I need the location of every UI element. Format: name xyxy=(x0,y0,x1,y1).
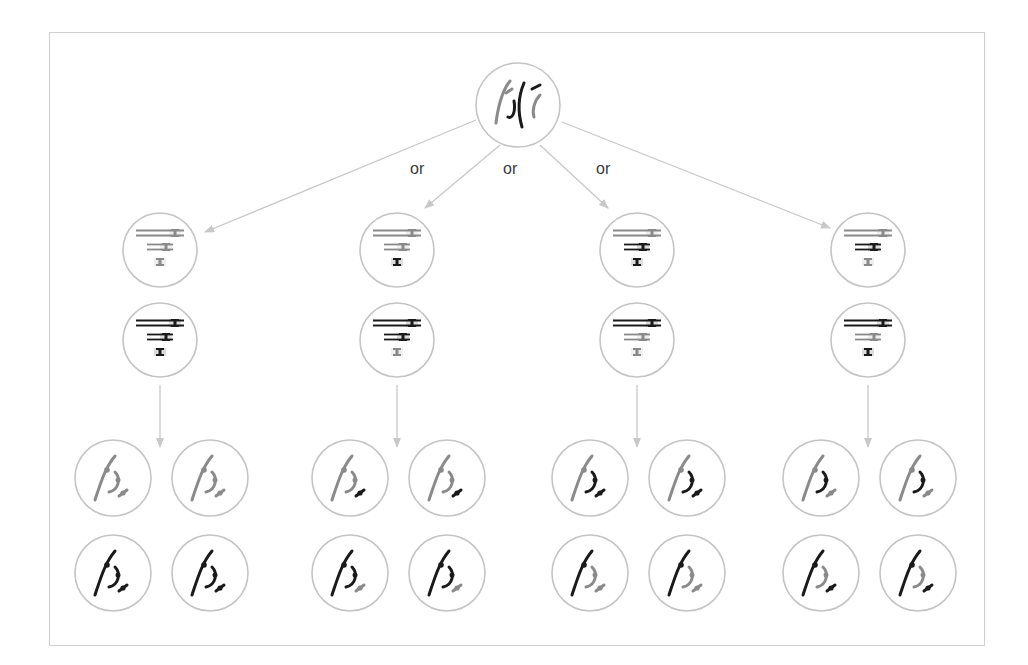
daughter-cell-4 xyxy=(649,535,725,611)
daughter-cell-2 xyxy=(409,440,485,516)
daughter-cell-2-outline xyxy=(649,440,725,516)
daughter-cell-3 xyxy=(312,535,388,611)
metaphase-lower-cell xyxy=(123,303,197,377)
daughter-cell-3-outline xyxy=(312,535,388,611)
daughter-cell-2-outline xyxy=(880,440,956,516)
daughter-cell-2 xyxy=(649,440,725,516)
cells-layer xyxy=(75,63,956,611)
metaphase-upper-cell xyxy=(123,213,197,287)
daughter-cell-1 xyxy=(75,440,151,516)
daughter-cell-4 xyxy=(172,535,248,611)
daughter-cell-3-outline xyxy=(75,535,151,611)
metaphase-upper-cell xyxy=(600,213,674,287)
branch-arrow xyxy=(205,120,476,232)
meiosis-diagram xyxy=(0,0,1028,665)
daughter-cell-4-outline xyxy=(409,535,485,611)
daughter-cell-2 xyxy=(172,440,248,516)
daughter-cell-3 xyxy=(552,535,628,611)
daughter-cell-1 xyxy=(783,440,859,516)
branch-arrow xyxy=(425,145,500,208)
metaphase-upper-cell xyxy=(360,213,434,287)
daughter-cell-1 xyxy=(312,440,388,516)
daughter-cell-3-outline xyxy=(783,535,859,611)
daughter-cell-4-outline xyxy=(880,535,956,611)
arrangement-2 xyxy=(312,213,485,611)
daughter-cell-1-outline xyxy=(552,440,628,516)
metaphase-lower-cell xyxy=(831,303,905,377)
daughter-cell-4 xyxy=(880,535,956,611)
daughter-cell-1-outline xyxy=(75,440,151,516)
daughter-cell-4-outline xyxy=(649,535,725,611)
daughter-cell-1-outline xyxy=(783,440,859,516)
arrangement-4 xyxy=(783,213,956,611)
parent-cell xyxy=(476,63,560,147)
metaphase-lower-cell xyxy=(360,303,434,377)
daughter-cell-3-outline xyxy=(552,535,628,611)
or-label-3: or xyxy=(596,160,610,178)
daughter-cell-2 xyxy=(880,440,956,516)
metaphase-upper-cell xyxy=(831,213,905,287)
or-label-2: or xyxy=(503,160,517,178)
arrangement-1 xyxy=(75,213,248,611)
daughter-cell-4-outline xyxy=(172,535,248,611)
daughter-cell-2-outline xyxy=(409,440,485,516)
daughter-cell-3 xyxy=(75,535,151,611)
daughter-cell-3 xyxy=(783,535,859,611)
daughter-cell-1-outline xyxy=(312,440,388,516)
daughter-cell-4 xyxy=(409,535,485,611)
metaphase-lower-cell xyxy=(600,303,674,377)
or-label-1: or xyxy=(410,160,424,178)
arrangement-3 xyxy=(552,213,725,611)
daughter-cell-1 xyxy=(552,440,628,516)
daughter-cell-2-outline xyxy=(172,440,248,516)
